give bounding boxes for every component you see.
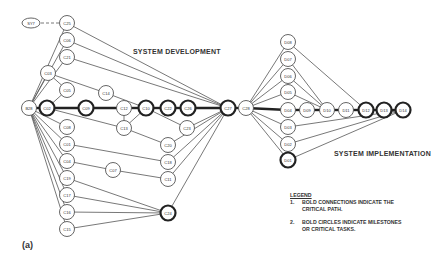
node-label: D05 [284, 90, 292, 95]
legend-item-text: BOLD CONNECTIONS INDICATE THE [302, 199, 394, 206]
node-c05: C05 [60, 83, 75, 98]
node-label: C12 [120, 106, 128, 111]
node-label: C07 [109, 168, 117, 173]
node-c21: C21 [60, 50, 75, 65]
node-label: C17 [63, 193, 71, 198]
edge-c01-c18 [67, 144, 168, 162]
node-label: C05 [63, 88, 71, 93]
node-d10: D10 [320, 103, 335, 118]
node-label: C26 [184, 106, 192, 111]
edge-c28-d01 [246, 108, 288, 160]
node-d06: D06 [281, 69, 296, 84]
node-label: D11 [342, 108, 350, 113]
system-development-title: SYSTEM DEVELOPMENT [133, 48, 221, 55]
node-c01: C01 [60, 137, 75, 152]
node-d07: D07 [281, 52, 296, 67]
node-c22: C22 [161, 101, 176, 116]
node-label: C25 [63, 21, 71, 26]
edge-c24-c27 [168, 108, 228, 213]
legend-item-1: 1. BOLD CONNECTIONS INDICATE THE CRITICA… [290, 199, 402, 213]
node-c20: C20 [161, 138, 176, 153]
node-d12: D12 [359, 103, 374, 118]
node-label: SY7 [27, 21, 35, 26]
node-d03: D03 [281, 120, 296, 135]
node-label: C28 [242, 106, 250, 111]
node-label: C08 [63, 125, 71, 130]
edge-c20-c27 [168, 108, 228, 145]
edge-c25-c27 [67, 23, 228, 108]
node-label: C24 [164, 211, 172, 216]
node-label: D13 [380, 108, 388, 113]
node-d01: D01 [281, 153, 296, 168]
legend-item-number: 2. [290, 219, 302, 233]
node-label: C13 [120, 126, 128, 131]
node-label: D06 [284, 74, 292, 79]
node-label: D08 [284, 40, 292, 45]
edge-c28-d07 [246, 59, 288, 108]
node-label: D07 [284, 57, 292, 62]
node-c06: C06 [60, 33, 75, 48]
node-label: D02 [284, 142, 292, 147]
edge-c16-c24 [67, 212, 168, 213]
node-c09: C09 [79, 101, 94, 116]
node-c07: C07 [106, 163, 121, 178]
node-c15: C15 [60, 222, 75, 237]
node-label: C27 [224, 106, 232, 111]
node-label: C23 [183, 126, 191, 131]
legend-item-2: 2. BOLD CIRCLES INDICATE MILESTONES OR C… [290, 219, 402, 233]
edge-c07-c11 [113, 170, 168, 179]
node-label: C11 [164, 177, 172, 182]
node-label: C22 [164, 106, 172, 111]
node-d13: D13 [377, 103, 392, 118]
legend-item-number: 1. [290, 199, 302, 213]
edge-c17-c24 [67, 195, 168, 213]
node-c02: C02 [40, 101, 55, 116]
node-c04: C04 [60, 154, 75, 169]
figure-label: (a) [22, 240, 33, 250]
node-d08: D08 [281, 35, 296, 50]
node-label: D03 [284, 125, 292, 130]
node-label: D10 [323, 108, 331, 113]
node-label: D04 [284, 108, 292, 113]
node-label: D09 [303, 108, 311, 113]
node-c11: C11 [161, 172, 176, 187]
legend-title: LEGEND [290, 192, 402, 199]
legend-item-text: CRITICAL PATH. [302, 206, 394, 213]
node-label: C02 [43, 106, 51, 111]
node-c16: C16 [60, 205, 75, 220]
legend: LEGEND 1. BOLD CONNECTIONS INDICATE THE … [290, 192, 402, 233]
node-c08: C08 [60, 120, 75, 135]
node-sy7: SY7 [22, 18, 40, 28]
node-c19: C19 [60, 171, 75, 186]
node-label: C18 [164, 160, 172, 165]
node-d14: D14 [396, 103, 411, 118]
node-label: B28 [25, 106, 33, 111]
node-c10: C10 [139, 101, 154, 116]
node-label: C06 [63, 38, 71, 43]
node-c23: C23 [180, 121, 195, 136]
legend-item-text: OR CRITICAL TASKS. [302, 226, 402, 233]
node-label: C10 [142, 106, 150, 111]
node-label: C14 [102, 91, 110, 96]
edge-c18-c27 [168, 108, 228, 162]
node-label: C03 [44, 71, 52, 76]
node-d04: D04 [281, 103, 296, 118]
node-c24: C24 [161, 206, 176, 221]
node-label: C04 [63, 159, 71, 164]
node-label: C01 [63, 142, 71, 147]
node-b28: B28 [22, 101, 37, 116]
node-c27: C27 [221, 101, 236, 116]
node-d02: D02 [281, 137, 296, 152]
node-c26: C26 [181, 101, 196, 116]
edge-c19-c24 [67, 178, 168, 213]
edge-c03-c14 [48, 73, 106, 93]
node-d09: D09 [300, 103, 315, 118]
node-label: D01 [284, 158, 292, 163]
node-c14: C14 [99, 86, 114, 101]
node-c17: C17 [60, 188, 75, 203]
node-d05: D05 [281, 85, 296, 100]
node-label: D14 [399, 108, 407, 113]
node-label: C15 [63, 227, 71, 232]
edge-d08-d12 [288, 42, 366, 110]
node-c03: C03 [41, 66, 56, 81]
